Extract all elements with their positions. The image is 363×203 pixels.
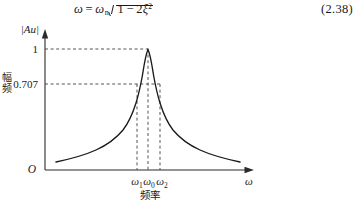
- y-axis-symbol-label: |Au|: [21, 23, 39, 35]
- radicand-xi-exponent: 2: [148, 2, 152, 11]
- y-axis-caption-char-1: 频: [0, 83, 15, 94]
- x-axis-arrow-icon: [245, 167, 255, 173]
- equation-lhs-omega: ω: [74, 2, 83, 16]
- y-tick-label-0707: 0.707: [13, 78, 38, 90]
- x-tick-omega2-subscript: 2: [164, 181, 168, 190]
- x-tick-label-omega2: ω2: [156, 175, 168, 190]
- equation-expression: ω=ωn1−2ξ2: [74, 2, 153, 17]
- y-axis-caption: 幅 频: [0, 72, 15, 94]
- equation-number: (2.38): [321, 2, 353, 17]
- y-axis-caption-char-0: 幅: [0, 72, 15, 83]
- x-tick-label-omega0: ω0: [143, 175, 155, 190]
- square-root-radical: 1−2ξ2: [109, 2, 153, 17]
- radical-overbar: [116, 5, 154, 6]
- y-tick-label-1: 1: [33, 43, 39, 55]
- origin-label: O: [28, 163, 37, 175]
- plot-svg: 1 0.707 O |Au| ω1 ω0 ω2 ω 频率: [0, 20, 363, 203]
- equation-row: ω=ωn1−2ξ2 (2.38): [0, 2, 363, 22]
- y-axis-arrow-icon: [42, 29, 48, 39]
- figure-page: ω=ωn1−2ξ2 (2.38) 幅 频: [0, 0, 363, 203]
- x-tick-label-omega1: ω1: [131, 175, 143, 190]
- x-axis-symbol-label: ω: [245, 175, 253, 187]
- resonance-plot: 幅 频 1 0.707 O |Au|: [0, 20, 363, 203]
- x-axis-caption: 频率: [140, 189, 160, 201]
- equation-rhs-omega: ω: [95, 2, 104, 16]
- equation-equals-sign: =: [83, 2, 95, 16]
